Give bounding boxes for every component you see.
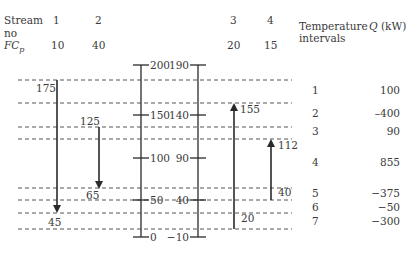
stream-4-start-temp: 40 (278, 186, 291, 198)
interval-6-q: −50 (360, 201, 400, 213)
interval-2-q: –400 (360, 107, 400, 119)
cold-tick-minus10: −10 (160, 231, 189, 243)
interval-5-no: 5 (312, 187, 319, 199)
interval-3-no: 3 (312, 125, 319, 137)
hot-tick-0: 0 (150, 231, 157, 243)
stream-2-start-temp: 125 (80, 115, 100, 127)
cold-tick-140: 140 (160, 109, 189, 121)
cold-tick-90: 90 (160, 152, 189, 164)
interval-1-no: 1 (312, 84, 319, 96)
cold-tick-190: 190 (160, 59, 189, 71)
diagram-drawing (0, 0, 416, 254)
hot-temperature-axis (133, 65, 149, 237)
stream-3-start-temp: 20 (241, 212, 254, 224)
interval-5-q: −375 (360, 187, 400, 199)
stream-3-end-temp: 155 (240, 103, 260, 115)
cold-temperature-axis (190, 65, 206, 237)
stream-1-start-temp: 175 (36, 82, 56, 94)
interval-3-q: 90 (360, 125, 400, 137)
cold-tick-40: 40 (160, 194, 189, 206)
interval-4-q: 855 (360, 156, 400, 168)
stream-1-end-temp: 45 (48, 216, 61, 228)
stream-2-end-temp: 65 (86, 189, 99, 201)
interval-4-no: 4 (312, 156, 319, 168)
interval-6-no: 6 (312, 201, 319, 213)
interval-2-no: 2 (312, 107, 319, 119)
interval-7-no: 7 (312, 215, 319, 227)
stream-4-end-temp: 112 (278, 139, 298, 151)
temperature-interval-diagram: Stream no FCp 1 2 3 4 10 40 20 15 Temper… (0, 0, 416, 254)
interval-1-q: 100 (360, 84, 400, 96)
interval-7-q: −300 (360, 215, 400, 227)
